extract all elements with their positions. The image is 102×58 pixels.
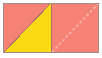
geometry-figure <box>0 0 102 58</box>
figure-stage <box>0 0 102 58</box>
